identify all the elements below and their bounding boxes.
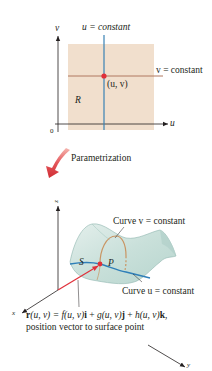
parametrization-label: Parametrization	[71, 154, 131, 164]
eq-args: (u, v) =	[30, 310, 61, 320]
eq-comma: ,	[165, 310, 167, 320]
eq-plus2: +	[125, 310, 135, 320]
equation-label: r(u, v) = f(u, v)i + g(u, v)j + h(u, v)k…	[26, 311, 167, 321]
eq-g-args: (u, v)	[102, 310, 122, 320]
v-axis-label: v	[55, 24, 59, 34]
parametrization-arrow-icon	[46, 148, 70, 178]
equation-caption: position vector to surface point	[26, 323, 144, 333]
v-constant-text: v = constant	[156, 65, 203, 75]
surface-s-label: S	[79, 258, 84, 268]
point-uv-label: (u, v)	[107, 80, 128, 90]
u-axis-label: u	[170, 119, 175, 129]
z-axis-label: z	[53, 200, 60, 203]
region-r-label: R	[75, 96, 81, 106]
eq-h-args: (u, v)	[140, 310, 160, 320]
equation-leader	[78, 280, 79, 307]
point-p-marker	[98, 262, 103, 267]
u-constant-text: u = constant	[82, 22, 130, 32]
curve-u-label: Curve u = constant	[122, 287, 194, 297]
u-constant-label: u = constant	[82, 23, 130, 33]
origin-label: 0	[50, 128, 54, 135]
v-constant-label: v = constant	[156, 66, 203, 76]
point-p-label: P	[108, 259, 114, 269]
surface-s-shape	[70, 224, 176, 284]
point-uv-marker	[101, 73, 106, 78]
eq-plus1: +	[87, 310, 97, 320]
y-axis-visible-segment	[148, 345, 185, 367]
y-axis-label: y	[187, 362, 190, 369]
eq-f-args: (u, v)	[64, 310, 84, 320]
x-axis-label: x	[12, 310, 15, 317]
curve-v-label: Curve v = constant	[113, 217, 185, 227]
